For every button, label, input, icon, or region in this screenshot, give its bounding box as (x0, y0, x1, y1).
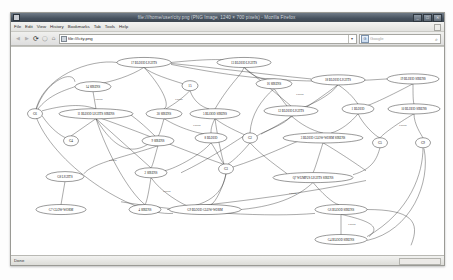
menu-tab[interactable]: Tab (94, 22, 101, 31)
status-text: Done (14, 256, 24, 265)
node-label: G7 GLOW-WORM (49, 208, 74, 212)
node-label: 2 SIRENS (145, 171, 158, 175)
node-label: G2 (248, 136, 252, 140)
node-label: G5 (378, 141, 382, 145)
graph-node[interactable]: 4 SIRENS (129, 204, 161, 214)
node-label: 8 BLOOD (205, 136, 219, 140)
node-label: 3 BLOOD GLOW-WORM SIRENS (301, 136, 346, 140)
graph-node[interactable]: 18 BLOOD LIGHTS (311, 75, 365, 85)
edge-label: COPS (109, 158, 117, 162)
progress-indicator (399, 258, 441, 265)
minimize-button[interactable]: _ (413, 14, 422, 22)
graph-node[interactable]: G4 BLOOD SIRENS (315, 234, 367, 244)
graph-node[interactable]: 9 SIRENS (142, 136, 174, 146)
graph-image: 17 BLOOD LIGHTS 13 BLOOD LIGHTS 14 SIREN… (11, 47, 444, 255)
graph-node[interactable]: G7 GLOW-WORM (36, 204, 86, 214)
graph-node[interactable]: 16 SIRENS (256, 79, 292, 89)
graph-node[interactable]: 15 (182, 81, 198, 91)
node-label: G9 (421, 141, 425, 145)
graph-node[interactable]: G9 BLOOD GLOW-WORM (169, 204, 241, 214)
node-label: 16 SIRENS (267, 82, 282, 86)
menu-file[interactable]: File (14, 22, 21, 31)
graph-node[interactable]: 2 SIRENS (135, 168, 167, 178)
maximize-button[interactable]: □ (423, 14, 432, 22)
node-label: Q7 WUMPUS LIGHTS SIRENS (293, 176, 334, 180)
search-icon[interactable]: ⌕ (435, 35, 439, 43)
edge-label: COPS (193, 123, 201, 127)
menu-tools[interactable]: Tools (105, 22, 115, 31)
search-engine-icon[interactable]: G (361, 35, 369, 43)
edge-label: COPS (175, 97, 183, 101)
edge-label: COPS (95, 97, 103, 101)
close-button[interactable]: ✕ (433, 14, 442, 22)
menu-bookmarks[interactable]: Bookmarks (68, 22, 90, 31)
node-label: 10 BLOOD SIRENS (401, 107, 427, 111)
firefox-icon (13, 14, 20, 21)
chevron-down-icon[interactable]: ▾ (348, 35, 355, 43)
search-input[interactable]: Google (370, 35, 434, 43)
node-label: 4 SIRENS (139, 208, 152, 212)
forward-icon[interactable]: ▶ (23, 35, 30, 42)
node-label: 5 BLOOD SIRENS (203, 112, 227, 116)
graph-node[interactable]: 17 BLOOD LIGHTS (117, 57, 171, 67)
menu-help[interactable]: Help (119, 22, 128, 31)
node-label: G8 LIGHTS (57, 175, 73, 179)
graph-node[interactable]: G5 (373, 138, 388, 148)
node-label: 9 SIRENS (152, 139, 165, 143)
edge-label: COPS (289, 191, 297, 195)
node-label: G9 BLOOD GLOW-WORM (187, 208, 223, 212)
node-label: 17 BLOOD LIGHTS (131, 61, 157, 65)
graph-node[interactable]: 5 BLOOD SIRENS (190, 109, 240, 119)
graph-node[interactable]: Q7 WUMPUS LIGHTS SIRENS (273, 173, 353, 183)
back-icon[interactable]: ◀ (14, 35, 21, 42)
graph-node[interactable]: 1 BLOOD (342, 104, 374, 114)
page-content: 17 BLOOD LIGHTS 13 BLOOD LIGHTS 14 SIREN… (11, 46, 444, 255)
graph-node[interactable]: 12 BLOOD LIGHTS (264, 106, 318, 116)
node-label: G4 BLOOD SIRENS (328, 238, 355, 242)
page-favicon-icon (61, 36, 67, 42)
edge-label: COPS (163, 189, 171, 193)
graph-node[interactable]: 14 SIRENS (75, 82, 111, 92)
node-label: G6 (33, 112, 37, 116)
node-label: 18 BLOOD LIGHTS (325, 78, 351, 82)
graph-node[interactable]: 19 BLOOD SIRENS (387, 74, 439, 84)
menu-edit[interactable]: Edit (25, 22, 33, 31)
edge-label: COPS (296, 92, 304, 96)
stop-icon[interactable]: ◯ (41, 35, 48, 42)
node-label: G6 BLOOD SIRENS (328, 208, 355, 212)
home-icon[interactable]: ⌂ (50, 35, 57, 42)
window-controls: _ □ ✕ (413, 14, 442, 22)
graph-node[interactable]: 8 BLOOD (195, 133, 227, 143)
node-label: 13 BLOOD LIGHTS (231, 61, 257, 65)
graph-node[interactable]: G9 (416, 138, 431, 148)
graph-node[interactable]: G2 (243, 133, 258, 143)
menubar-overflow-icon[interactable] (434, 24, 441, 31)
node-label: 20 SIRENS (157, 112, 172, 116)
graph-node[interactable]: G6 (28, 109, 43, 119)
graph-nodes: 17 BLOOD LIGHTS 13 BLOOD LIGHTS 14 SIREN… (28, 57, 441, 244)
browser-window: file:///home/user/city.png (PNG Image, 1… (10, 12, 445, 266)
url-input[interactable]: file:///city.png (68, 35, 347, 43)
graph-node[interactable]: G8 LIGHTS (46, 172, 84, 182)
graph-node[interactable]: G4 (64, 136, 79, 146)
window-titlebar[interactable]: file:///home/user/city.png (PNG Image, 1… (11, 13, 444, 22)
screenshot-root: file:///home/user/city.png (PNG Image, 1… (0, 0, 453, 280)
graph-node[interactable]: 11 BLOOD LIGHTS SIRENS (59, 109, 133, 119)
node-label: G3 (224, 167, 228, 171)
graph-node[interactable]: 20 SIRENS (146, 109, 182, 119)
graph-node[interactable]: 3 BLOOD GLOW-WORM SIRENS (283, 133, 363, 143)
node-label: 15 (188, 84, 192, 88)
search-bar[interactable]: G Google ⌕ (359, 34, 441, 44)
menu-history[interactable]: History (50, 22, 64, 31)
node-label: 19 BLOOD SIRENS (400, 77, 426, 81)
statusbar: Done (11, 255, 444, 265)
graph-node[interactable]: G6 BLOOD SIRENS (315, 204, 367, 214)
graph-node[interactable]: 13 BLOOD LIGHTS (217, 57, 271, 67)
graph-node[interactable]: G3 (219, 164, 234, 174)
reload-icon[interactable]: ⟳ (32, 35, 39, 42)
menu-view[interactable]: View (37, 22, 46, 31)
url-bar[interactable]: file:///city.png ▾ (59, 34, 357, 44)
graph-node[interactable]: 10 BLOOD SIRENS (388, 104, 440, 114)
edge-label: COPS (348, 222, 356, 226)
window-title: file:///home/user/city.png (PNG Image, 1… (20, 13, 413, 22)
